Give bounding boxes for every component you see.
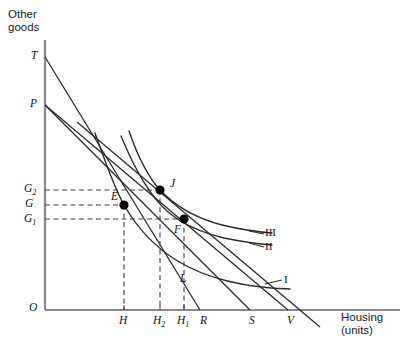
x-tick-label-S: S: [249, 314, 255, 326]
y-tick-label-P: P: [30, 97, 37, 109]
budget-lines-group: [45, 57, 320, 327]
budget-line-TR: [45, 57, 200, 310]
indifference-curve-figure: Other goods Housing (units) T P G2 G G1 …: [0, 0, 411, 349]
y-tick-label-G2-sub: 2: [32, 188, 36, 197]
curve-label-I: I: [284, 273, 288, 285]
point-label-F: F: [174, 223, 181, 235]
curve-label-III: III: [265, 226, 276, 238]
indifference-curve-II-path: [121, 136, 272, 245]
axes-group: [45, 40, 400, 310]
x-tick-label-R: R: [200, 314, 207, 326]
chart-canvas: [0, 0, 411, 349]
x-tick-label-H2: H2: [153, 314, 165, 329]
y-tick-label-G1: G1: [24, 212, 36, 227]
x-tick-label-H2-sub: 2: [161, 320, 165, 329]
x-tick-label-V: V: [287, 314, 294, 326]
point-J: [155, 185, 164, 194]
x-tick-label-H: H: [119, 314, 127, 326]
indifference-curve-III-path: [129, 131, 272, 233]
y-tick-label-T: T: [31, 49, 37, 61]
point-label-J: J: [170, 177, 175, 189]
y-tick-label-G1-sub: 1: [32, 218, 36, 227]
y-tick-label-G: G: [25, 197, 33, 209]
point-label-E: E: [111, 190, 118, 202]
point-E: [119, 200, 128, 209]
annotation-label-L: L: [180, 272, 186, 284]
y-axis-title: Other goods: [8, 8, 39, 34]
budget-line-compensating: [77, 122, 320, 327]
x-axis-title: Housing (units): [341, 311, 383, 337]
x-tick-label-H1: H1: [177, 314, 189, 329]
budget-line-PV: [45, 105, 288, 310]
x-tick-label-H1-sub: 1: [185, 320, 189, 329]
curve-leader-lines-group: [249, 231, 282, 284]
y-tick-label-G2: G2: [24, 182, 36, 197]
curve-label-II: II: [265, 240, 272, 252]
origin-label-O: O: [29, 301, 37, 313]
